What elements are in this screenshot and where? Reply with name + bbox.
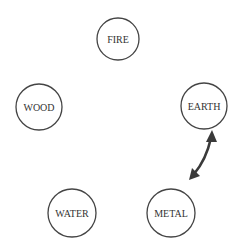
node-wood: WOOD bbox=[16, 84, 62, 130]
edge-earth-metal bbox=[189, 130, 217, 180]
fire-label: FIRE bbox=[107, 34, 129, 45]
node-earth: EARTH bbox=[181, 83, 227, 129]
bidirectional-arrow-line bbox=[194, 138, 211, 174]
water-label: WATER bbox=[55, 208, 89, 219]
wood-label: WOOD bbox=[23, 102, 54, 113]
node-fire: FIRE bbox=[97, 18, 139, 60]
earth-label: EARTH bbox=[188, 101, 221, 112]
node-metal: METAL bbox=[147, 189, 195, 237]
arrowhead-up-icon bbox=[206, 130, 217, 142]
metal-label: METAL bbox=[154, 208, 188, 219]
node-water: WATER bbox=[48, 189, 96, 237]
five-elements-diagram: FIRE EARTH METAL WATER WOOD bbox=[0, 0, 239, 241]
